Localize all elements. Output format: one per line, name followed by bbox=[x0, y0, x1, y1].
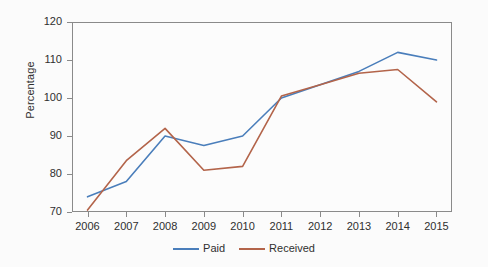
y-tick-label: 70 bbox=[18, 206, 62, 217]
x-tick-mark bbox=[165, 212, 166, 217]
x-tick-mark bbox=[88, 212, 89, 217]
y-tick-label: 110 bbox=[18, 54, 62, 65]
x-tick-mark bbox=[126, 212, 127, 217]
y-tick-label: 120 bbox=[18, 16, 62, 27]
x-tick-mark bbox=[436, 212, 437, 217]
chart-plot-lines bbox=[72, 22, 452, 212]
legend-item-paid[interactable]: Paid bbox=[173, 243, 225, 254]
x-tick-mark bbox=[281, 212, 282, 217]
x-tick-label: 2015 bbox=[413, 221, 459, 232]
y-tick-mark bbox=[67, 212, 72, 213]
x-tick-mark bbox=[398, 212, 399, 217]
legend-item-received[interactable]: Received bbox=[239, 243, 315, 254]
legend-label: Paid bbox=[203, 243, 225, 254]
chart-figure: Percentage 708090100110120 2006200720082… bbox=[0, 0, 488, 267]
series-line-received bbox=[88, 70, 437, 211]
y-tick-label: 80 bbox=[18, 168, 62, 179]
y-tick-label: 90 bbox=[18, 130, 62, 141]
legend-label: Received bbox=[269, 243, 315, 254]
x-tick-mark bbox=[243, 212, 244, 217]
x-tick-mark bbox=[359, 212, 360, 217]
x-tick-mark bbox=[320, 212, 321, 217]
y-tick-label: 100 bbox=[18, 92, 62, 103]
series-line-paid bbox=[88, 52, 437, 196]
legend-swatch-paid bbox=[173, 248, 199, 250]
x-tick-mark bbox=[204, 212, 205, 217]
chart-legend: PaidReceived bbox=[0, 243, 488, 254]
legend-swatch-received bbox=[239, 248, 265, 250]
